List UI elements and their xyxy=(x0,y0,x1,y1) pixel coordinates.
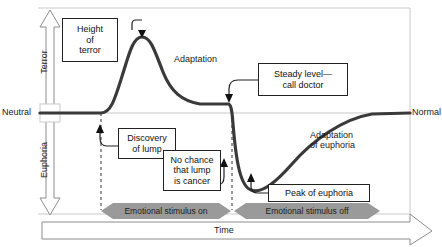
arrowhead-peak-of-euphoria xyxy=(247,173,255,182)
connector-steady-level xyxy=(229,80,258,94)
axis-label-normal: Normal xyxy=(412,107,441,117)
arrowhead-steady-level xyxy=(225,94,233,103)
arrowhead-no-chance-cancer xyxy=(220,158,228,167)
time-axis-arrow xyxy=(42,214,432,245)
callout-height-of-terror: Height of terror xyxy=(62,18,118,62)
connector-height-of-terror xyxy=(132,20,142,30)
callout-adaptation: Adaptation xyxy=(174,54,217,64)
axis-label-time: Time xyxy=(214,225,234,235)
band-label-stimulus-on: Emotional stimulus on xyxy=(113,206,219,216)
axis-label-euphoria: Euphoria xyxy=(39,132,49,188)
callout-peak-of-euphoria: Peak of euphoria xyxy=(268,184,370,202)
connector-discovery-of-lump xyxy=(100,133,118,146)
diagram-canvas: Terror Euphoria Neutral Normal Time Heig… xyxy=(0,0,442,247)
arrowhead-discovery-of-lump xyxy=(96,124,104,133)
axis-label-terror: Terror xyxy=(39,39,49,85)
callout-steady-level: Steady level— call doctor xyxy=(258,63,348,96)
callout-adaptation-of-euphoria: Adaptation of euphoria xyxy=(310,130,355,150)
axis-label-neutral: Neutral xyxy=(2,107,31,117)
band-label-stimulus-off: Emotional stimulus off xyxy=(246,206,368,216)
callout-no-chance-cancer: No chance that lump is cancer xyxy=(163,150,221,191)
